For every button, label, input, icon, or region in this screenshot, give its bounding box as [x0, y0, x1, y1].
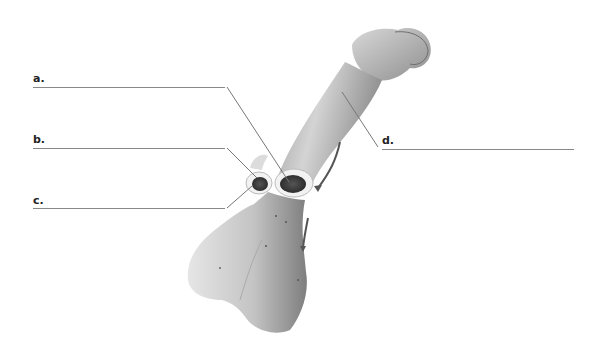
- answer-line-c[interactable]: [33, 208, 225, 209]
- answer-line-d[interactable]: [382, 149, 574, 150]
- label-c: c.: [33, 195, 44, 206]
- label-b: b.: [33, 134, 45, 145]
- bone-distal-end: [188, 192, 307, 333]
- bone-illustration: [0, 0, 606, 358]
- answer-line-b[interactable]: [33, 148, 225, 149]
- diagram-canvas: a. b. c. d.: [0, 0, 606, 358]
- shaft-cross-section: [275, 169, 313, 197]
- leader-line-c: [227, 186, 252, 208]
- label-a: a.: [33, 73, 45, 84]
- label-d: d.: [382, 135, 394, 146]
- answer-line-a[interactable]: [33, 87, 225, 88]
- bone-shaft: [278, 62, 382, 184]
